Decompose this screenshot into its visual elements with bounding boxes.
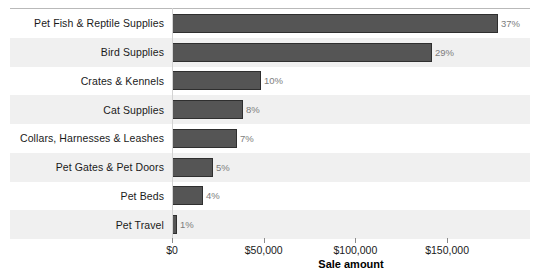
bar-data-label: 5% bbox=[216, 162, 230, 173]
chart-row[interactable]: Cat Supplies 8% bbox=[10, 95, 530, 124]
bar-data-label: 4% bbox=[206, 190, 220, 201]
bar[interactable] bbox=[172, 100, 243, 119]
bar[interactable] bbox=[172, 43, 432, 62]
bar-track: 37% bbox=[172, 9, 530, 38]
chart-row[interactable]: Pet Beds 4% bbox=[10, 182, 530, 211]
chart-row[interactable]: Collars, Harnesses & Leashes 7% bbox=[10, 124, 530, 153]
plot-area: Pet Fish & Reptile Supplies 37% Bird Sup… bbox=[10, 8, 530, 238]
category-label: Crates & Kennels bbox=[10, 67, 168, 96]
x-axis-title: Sale amount bbox=[172, 258, 530, 270]
category-label: Pet Beds bbox=[10, 182, 168, 211]
category-label: Pet Travel bbox=[10, 210, 168, 239]
category-label: Collars, Harnesses & Leashes bbox=[10, 124, 168, 153]
bar[interactable] bbox=[172, 71, 261, 90]
x-axis: $0 $50,000 $100,000 $150,000 Sale amount bbox=[0, 238, 540, 274]
chart-row[interactable]: Pet Gates & Pet Doors 5% bbox=[10, 153, 530, 182]
bar[interactable] bbox=[172, 186, 203, 205]
chart-row[interactable]: Pet Travel 1% bbox=[10, 210, 530, 239]
chart-row[interactable]: Crates & Kennels 10% bbox=[10, 67, 530, 96]
x-tick-label: $0 bbox=[166, 244, 178, 256]
x-tick-mark bbox=[264, 238, 265, 243]
category-label: Bird Supplies bbox=[10, 38, 168, 67]
bar-track: 5% bbox=[172, 153, 530, 182]
bar-data-label: 37% bbox=[501, 18, 520, 29]
bar-track: 4% bbox=[172, 182, 530, 211]
category-label: Pet Gates & Pet Doors bbox=[10, 153, 168, 182]
x-tick-mark bbox=[447, 238, 448, 243]
value-axis-baseline bbox=[172, 8, 173, 238]
bar-data-label: 10% bbox=[264, 75, 283, 86]
category-label: Pet Fish & Reptile Supplies bbox=[10, 9, 168, 38]
chart-row[interactable]: Pet Fish & Reptile Supplies 37% bbox=[10, 9, 530, 38]
bar-track: 29% bbox=[172, 38, 530, 67]
bar-data-label: 7% bbox=[240, 133, 254, 144]
chart-row[interactable]: Bird Supplies 29% bbox=[10, 38, 530, 67]
x-tick-label: $150,000 bbox=[425, 244, 469, 256]
bar-data-label: 29% bbox=[435, 47, 454, 58]
bar-chart: Pet Fish & Reptile Supplies 37% Bird Sup… bbox=[0, 0, 540, 274]
bar-track: 8% bbox=[172, 95, 530, 124]
x-tick-mark bbox=[355, 238, 356, 243]
category-label: Cat Supplies bbox=[10, 95, 168, 124]
x-tick-label: $50,000 bbox=[245, 244, 283, 256]
x-tick-label: $100,000 bbox=[333, 244, 377, 256]
bar-track: 10% bbox=[172, 67, 530, 96]
bar[interactable] bbox=[172, 158, 213, 177]
x-tick-mark bbox=[172, 238, 173, 243]
bar[interactable] bbox=[172, 14, 498, 33]
bar-track: 7% bbox=[172, 124, 530, 153]
bar-track: 1% bbox=[172, 210, 530, 239]
bar-data-label: 8% bbox=[246, 104, 260, 115]
bar[interactable] bbox=[172, 129, 237, 148]
bar-data-label: 1% bbox=[180, 219, 194, 230]
